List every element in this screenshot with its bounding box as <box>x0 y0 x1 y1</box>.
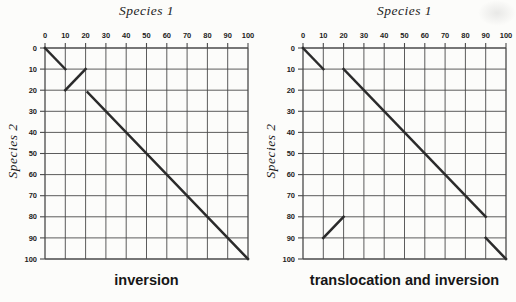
genome-dotplot-figure: Species 1 Species 2 01020304050607080901… <box>0 0 516 302</box>
diagonal-segment-start <box>303 48 323 69</box>
y-tick-label: 0 <box>33 44 37 53</box>
x-axis-title: Species 1 <box>45 3 248 19</box>
x-tick-label: 20 <box>81 31 89 40</box>
y-tick-label: 40 <box>29 128 37 137</box>
x-tick-label: 90 <box>224 31 232 40</box>
y-tick-label: 20 <box>29 86 37 95</box>
x-axis-title: Species 1 <box>303 3 506 19</box>
y-tick-label: 10 <box>29 65 37 74</box>
x-tick-label: 80 <box>203 31 211 40</box>
y-tick-label: 50 <box>29 149 37 158</box>
x-tick-label: 60 <box>421 31 429 40</box>
translocated-inverted-segment <box>323 217 343 238</box>
y-tick-label: 40 <box>287 128 295 137</box>
y-tick-labels: 0102030405060708090100 <box>24 44 37 264</box>
x-tick-label: 50 <box>400 31 408 40</box>
dotplot-panel-inversion: Species 1 Species 2 01020304050607080901… <box>0 0 258 302</box>
y-tick-label: 100 <box>282 255 295 264</box>
y-tick-label: 50 <box>287 149 295 158</box>
y-tick-label: 90 <box>29 234 37 243</box>
y-axis-title: Species 2 <box>5 123 21 178</box>
x-tick-label: 70 <box>441 31 449 40</box>
y-tick-label: 100 <box>24 255 37 264</box>
caption-inversion: inversion <box>45 272 248 288</box>
diagonal-segment-end <box>88 92 248 259</box>
diagonal-segment-end <box>486 238 506 259</box>
y-tick-label: 60 <box>29 170 37 179</box>
x-tick-label: 90 <box>482 31 490 40</box>
y-tick-label: 30 <box>29 107 37 116</box>
x-tick-label: 50 <box>142 31 150 40</box>
dotplot-panel-translocation-inversion: Species 1 Species 2 01020304050607080901… <box>258 0 516 302</box>
y-tick-label: 60 <box>287 170 295 179</box>
y-tick-label: 0 <box>291 44 295 53</box>
x-tick-label: 10 <box>61 31 69 40</box>
x-tick-label: 40 <box>380 31 388 40</box>
x-tick-label: 30 <box>360 31 368 40</box>
translocated-diagonal <box>344 69 486 217</box>
y-tick-label: 70 <box>29 191 37 200</box>
x-tick-labels: 0102030405060708090100 <box>43 31 254 40</box>
x-tick-label: 40 <box>122 31 130 40</box>
y-tick-label: 30 <box>287 107 295 116</box>
diagonal-segment-start <box>45 48 65 69</box>
x-tick-label: 80 <box>461 31 469 40</box>
y-tick-label: 70 <box>287 191 295 200</box>
x-tick-label: 100 <box>500 31 513 40</box>
caption-translocation-inversion: translocation and inversion <box>303 272 506 288</box>
x-tick-label: 70 <box>183 31 191 40</box>
tick-marks <box>298 43 506 259</box>
x-tick-label: 60 <box>163 31 171 40</box>
y-tick-label: 80 <box>287 212 295 221</box>
inverted-segment <box>65 69 85 90</box>
y-tick-label: 10 <box>287 65 295 74</box>
y-axis-title: Species 2 <box>263 123 279 178</box>
x-tick-label: 0 <box>301 31 305 40</box>
dotplot-grid-translocation-inversion: 0102030405060708090100010203040506070809… <box>278 24 516 264</box>
x-tick-label: 30 <box>102 31 110 40</box>
x-tick-label: 10 <box>319 31 327 40</box>
x-tick-labels: 0102030405060708090100 <box>301 31 512 40</box>
x-tick-label: 20 <box>339 31 347 40</box>
x-tick-label: 100 <box>242 31 255 40</box>
x-tick-label: 0 <box>43 31 47 40</box>
dotplot-grid-inversion: 0102030405060708090100010203040506070809… <box>20 24 258 264</box>
y-tick-label: 90 <box>287 234 295 243</box>
y-tick-label: 20 <box>287 86 295 95</box>
y-tick-label: 80 <box>29 212 37 221</box>
y-tick-labels: 0102030405060708090100 <box>282 44 295 264</box>
